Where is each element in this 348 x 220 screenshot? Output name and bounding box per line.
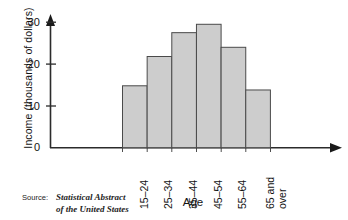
bar	[196, 24, 221, 147]
x-tick-label: 15–24	[139, 153, 151, 209]
bar	[221, 47, 246, 147]
bar	[172, 33, 197, 148]
y-tick-label-20: 20	[14, 58, 40, 70]
bar	[246, 90, 271, 148]
x-tick-label: 65 and over	[265, 153, 288, 209]
bar	[123, 86, 148, 148]
x-axis-ticks	[123, 148, 271, 152]
source-note: Source:Statistical Abstract of the Unite…	[22, 192, 129, 214]
y-tick-label-30: 30	[14, 16, 40, 28]
x-axis-arrowhead	[330, 143, 342, 152]
bar	[147, 57, 172, 148]
y-tick-label-0: 0	[14, 141, 40, 153]
x-axis-title: Age	[158, 196, 228, 208]
x-tick-label: 55–64	[237, 153, 249, 209]
y-axis-arrowhead	[46, 14, 55, 26]
source-text-line1: Statistical Abstract	[56, 192, 125, 203]
bar-chart: Income (thousands of dollars) 30 20 10 0…	[0, 0, 348, 220]
bars-group	[123, 24, 271, 147]
source-label: Source:	[22, 193, 56, 204]
source-text-line2: of the United States	[56, 204, 129, 215]
y-tick-label-10: 10	[14, 100, 40, 112]
